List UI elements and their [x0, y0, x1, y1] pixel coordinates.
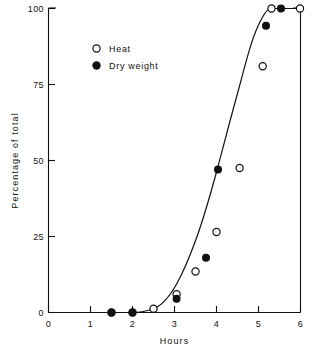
legend-label-heat: Heat [109, 44, 131, 54]
data-point-dryweight-1 [108, 309, 115, 316]
x-tick-label-2: 2 [130, 319, 135, 329]
x-tick-label-3: 3 [172, 319, 177, 329]
x-axis-tick-labels: 0 1 2 3 4 5 6 [46, 319, 303, 329]
data-curve [112, 9, 301, 313]
series-heat-markers [108, 5, 304, 316]
data-point-dryweight-6 [263, 22, 270, 29]
x-tick-label-4: 4 [214, 319, 219, 329]
x-tick-label-0: 0 [46, 319, 51, 329]
y-tick-label-0: 0 [39, 308, 44, 318]
y-tick-label-75: 75 [33, 80, 44, 90]
chart-canvas: 0 25 50 75 100 0 1 2 3 4 5 6 Hours [0, 0, 321, 350]
chart-legend: Heat Dry weight [93, 44, 159, 71]
chart-figure: 0 25 50 75 100 0 1 2 3 4 5 6 Hours [0, 0, 321, 350]
x-axis-ticks [49, 306, 301, 313]
y-axis-ticks [49, 9, 56, 313]
y-tick-label-100: 100 [28, 4, 44, 14]
data-point-dryweight-3 [173, 295, 180, 302]
data-point-dryweight-5 [215, 166, 222, 173]
data-point-heat-5 [192, 268, 199, 275]
legend-marker-dry-weight [93, 62, 100, 69]
x-tick-label-1: 1 [88, 319, 93, 329]
x-tick-label-5: 5 [256, 319, 261, 329]
x-axis-title: Hours [160, 336, 190, 346]
data-point-dryweight-7 [278, 5, 285, 12]
x-tick-label-6: 6 [298, 319, 303, 329]
y-tick-label-50: 50 [33, 156, 44, 166]
y-tick-label-25: 25 [33, 232, 44, 242]
data-point-dryweight-2 [129, 309, 136, 316]
y-axis-tick-labels: 0 25 50 75 100 [28, 4, 44, 318]
axis-lines [49, 8, 301, 313]
data-point-dryweight-4 [203, 254, 210, 261]
data-point-heat-9 [268, 5, 275, 12]
data-point-heat-8 [259, 63, 266, 70]
data-point-heat-7 [236, 164, 243, 171]
data-point-heat-6 [213, 228, 220, 235]
y-axis-title: Percentage of total [10, 112, 20, 208]
legend-marker-heat [93, 45, 100, 52]
data-point-heat-10 [296, 5, 303, 12]
data-point-heat-3 [150, 305, 157, 312]
legend-label-dry-weight: Dry weight [109, 61, 159, 71]
